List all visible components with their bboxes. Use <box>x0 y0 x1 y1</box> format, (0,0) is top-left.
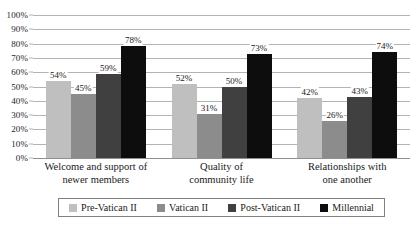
bar-chart: 0%10%20%30%40%50%60%70%80%90%100% 54%45%… <box>0 0 414 230</box>
y-tick-label: 80% <box>11 39 28 49</box>
y-tick-mark-20 <box>29 129 33 130</box>
y-tick-mark-50 <box>29 86 33 87</box>
legend-item[interactable]: Vatican II <box>147 202 218 213</box>
bar-value-label: 43% <box>350 86 369 97</box>
x-axis-labels: Welcome and support ofnewer membersQuali… <box>33 160 410 190</box>
x-label-line: Relationships with <box>284 160 410 173</box>
y-tick-label: 10% <box>11 139 28 149</box>
bar-value-label: 78% <box>124 35 143 46</box>
bar <box>322 121 347 158</box>
x-label-line: newer members <box>33 173 159 186</box>
gridline-0 <box>33 158 410 159</box>
plot-area: 54%45%59%78%52%31%50%73%42%26%43%74% <box>33 15 410 158</box>
bar-value-label: 45% <box>74 83 93 94</box>
x-axis-category-label: Relationships withone another <box>284 160 410 186</box>
bar <box>222 87 247 159</box>
x-axis-category-label: Welcome and support ofnewer members <box>33 160 159 186</box>
bar-value-label: 42% <box>300 87 319 98</box>
legend-label: Pre-Vatican II <box>81 202 137 213</box>
y-tick-label: 100% <box>7 10 28 20</box>
y-tick-mark-30 <box>29 115 33 116</box>
bars-layer: 54%45%59%78%52%31%50%73%42%26%43%74% <box>33 15 410 158</box>
bar-value-label: 31% <box>200 103 219 114</box>
legend-swatch-icon <box>69 204 77 212</box>
y-tick-mark-100 <box>29 15 33 16</box>
legend-item[interactable]: Pre-Vatican II <box>59 202 147 213</box>
bar <box>46 81 71 158</box>
y-tick-mark-40 <box>29 100 33 101</box>
y-tick-mark-60 <box>29 72 33 73</box>
bar <box>347 97 372 158</box>
bar <box>247 54 272 158</box>
bar <box>372 52 397 158</box>
y-axis: 0%10%20%30%40%50%60%70%80%90%100% <box>0 15 33 158</box>
bar-value-label: 52% <box>175 73 194 84</box>
y-tick-label: 40% <box>11 96 28 106</box>
y-tick-label: 90% <box>11 24 28 34</box>
y-tick-mark-0 <box>29 158 33 159</box>
x-axis-category-label: Quality ofcommunity life <box>159 160 285 186</box>
y-tick-mark-80 <box>29 43 33 44</box>
legend-item[interactable]: Post-Vatican II <box>218 202 310 213</box>
x-label-line: Quality of <box>159 160 285 173</box>
y-tick-label: 30% <box>11 110 28 120</box>
y-tick-label: 60% <box>11 67 28 77</box>
y-tick-label: 20% <box>11 124 28 134</box>
bar <box>71 94 96 158</box>
legend-swatch-icon <box>320 204 328 212</box>
y-tick-label: 70% <box>11 53 28 63</box>
bar-value-label: 73% <box>250 43 269 54</box>
legend-swatch-icon <box>157 204 165 212</box>
y-tick-mark-70 <box>29 57 33 58</box>
legend-item[interactable]: Millennial <box>310 202 384 213</box>
bar-value-label: 26% <box>325 110 344 121</box>
legend-swatch-icon <box>228 204 236 212</box>
legend-label: Millennial <box>332 202 374 213</box>
x-label-line: Welcome and support of <box>33 160 159 173</box>
y-tick-mark-10 <box>29 143 33 144</box>
x-label-line: community life <box>159 173 285 186</box>
y-tick-label: 0% <box>16 153 28 163</box>
bar <box>121 46 146 158</box>
bar <box>172 84 197 158</box>
bar-value-label: 74% <box>375 41 394 52</box>
bar-value-label: 59% <box>99 63 118 74</box>
x-label-line: one another <box>284 173 410 186</box>
legend-label: Post-Vatican II <box>240 202 300 213</box>
legend-label: Vatican II <box>169 202 208 213</box>
y-tick-label: 50% <box>11 82 28 92</box>
bar-value-label: 50% <box>225 76 244 87</box>
bar <box>197 114 222 158</box>
bar <box>297 98 322 158</box>
chart-legend: Pre-Vatican IIVatican IIPost-Vatican IIM… <box>58 198 385 217</box>
bar <box>96 74 121 158</box>
y-tick-mark-90 <box>29 29 33 30</box>
bar-value-label: 54% <box>49 70 68 81</box>
